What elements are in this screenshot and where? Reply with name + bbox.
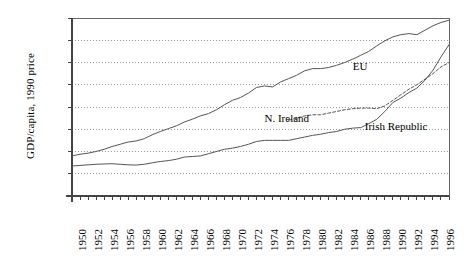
x-tick-label: 1984 — [349, 229, 360, 251]
x-tick-label: 1950 — [77, 229, 88, 251]
x-axis-tick-labels: 1950195219541956195819601962196419661968… — [0, 0, 464, 266]
x-tick-label: 1990 — [397, 229, 408, 251]
x-tick-label: 1962 — [173, 229, 184, 251]
x-tick-label: 1996 — [445, 229, 456, 251]
x-tick-label: 1980 — [317, 229, 328, 251]
x-tick-label: 1964 — [189, 229, 200, 251]
x-tick-label: 1974 — [269, 229, 280, 251]
x-tick-label: 1986 — [365, 229, 376, 251]
x-tick-label: 1968 — [221, 229, 232, 251]
x-tick-label: 1982 — [333, 229, 344, 251]
x-tick-label: 1976 — [285, 229, 296, 251]
x-tick-label: 1992 — [413, 229, 424, 251]
x-tick-label: 1958 — [141, 229, 152, 251]
x-tick-label: 1994 — [429, 229, 440, 251]
x-tick-label: 1972 — [253, 229, 264, 251]
series-label-irish-republic: Irish Republic — [365, 121, 428, 132]
x-tick-label: 1988 — [381, 229, 392, 251]
x-tick-label: 1956 — [125, 229, 136, 251]
x-tick-label: 1966 — [205, 229, 216, 251]
chart-figure: GDP/capita, 1990 price 02,0004,0006,0008… — [0, 0, 464, 266]
x-tick-label: 1960 — [157, 229, 168, 251]
series-label-n-ireland: N. Ireland — [265, 113, 310, 124]
x-tick-label: 1954 — [109, 229, 120, 251]
x-tick-label: 1970 — [237, 229, 248, 251]
series-label-eu: EU — [353, 61, 368, 72]
x-tick-label: 1978 — [301, 229, 312, 251]
x-tick-label: 1952 — [93, 229, 104, 251]
